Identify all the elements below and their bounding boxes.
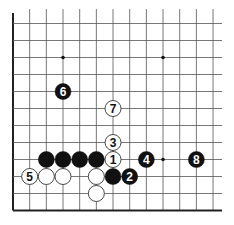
white-stone-3: 3: [105, 135, 121, 151]
black-stone: [105, 169, 121, 185]
go-board: 67314852: [0, 0, 234, 225]
black-stone-icon: [88, 152, 104, 168]
black-stone-6: 6: [55, 84, 71, 100]
star-point-icon: [161, 158, 165, 162]
black-stone: [88, 152, 104, 168]
move-number: 2: [126, 170, 133, 184]
move-number: 7: [110, 102, 117, 116]
black-stone-8: 8: [188, 152, 204, 168]
white-stone: [38, 169, 54, 185]
black-stone: [72, 152, 88, 168]
black-stone-icon: [72, 152, 88, 168]
white-stone: [55, 169, 71, 185]
white-stone: [88, 186, 104, 202]
white-stone-icon: [88, 169, 104, 185]
black-stone-2: 2: [122, 169, 138, 185]
move-number: 1: [110, 153, 117, 167]
black-stone: [55, 152, 71, 168]
black-stone: [38, 152, 54, 168]
white-stone-5: 5: [22, 169, 38, 185]
black-stone-icon: [55, 152, 71, 168]
white-stone-1: 1: [105, 152, 121, 168]
move-number: 3: [110, 136, 117, 150]
black-stone-4: 4: [138, 152, 154, 168]
move-number: 6: [60, 85, 67, 99]
move-number: 5: [26, 170, 33, 184]
white-stone-icon: [55, 169, 71, 185]
white-stone-icon: [38, 169, 54, 185]
black-stone-icon: [105, 169, 121, 185]
move-number: 4: [143, 153, 150, 167]
star-point-icon: [161, 56, 165, 60]
move-number: 8: [193, 153, 200, 167]
white-stone-icon: [88, 186, 104, 202]
white-stone: [88, 169, 104, 185]
white-stone-7: 7: [105, 101, 121, 117]
star-point-icon: [61, 56, 65, 60]
black-stone-icon: [38, 152, 54, 168]
